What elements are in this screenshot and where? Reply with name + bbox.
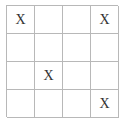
cell-r0-c2[interactable] [63,6,91,34]
cell-r3-c1[interactable] [35,90,63,118]
cell-r0-c3[interactable]: X [91,6,119,34]
cell-r3-c2[interactable] [63,90,91,118]
cell-r2-c3[interactable] [91,62,119,90]
cell-r2-c2[interactable] [63,62,91,90]
cell-r2-c0[interactable] [7,62,35,90]
cell-r1-c2[interactable] [63,34,91,62]
cell-r3-c0[interactable] [7,90,35,118]
cell-r1-c1[interactable] [35,34,63,62]
cell-r0-c1[interactable] [35,6,63,34]
cell-r3-c3[interactable]: X [91,90,119,118]
game-board: X X X X [6,5,118,117]
cell-r0-c0[interactable]: X [7,6,35,34]
cell-r2-c1[interactable]: X [35,62,63,90]
cell-r1-c3[interactable] [91,34,119,62]
cell-r1-c0[interactable] [7,34,35,62]
